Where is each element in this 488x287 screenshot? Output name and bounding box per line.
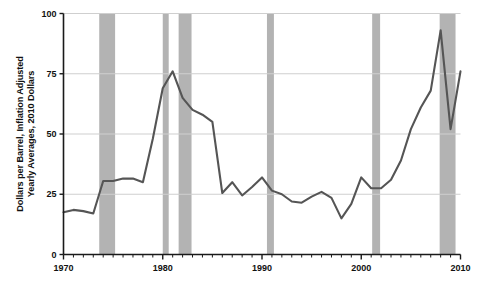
y-axis-tick-label: 75	[46, 69, 56, 79]
y-axis-title-line-2: Yearly Averages, 2010 Dollars	[26, 71, 36, 198]
chart-canvas: 025507510019701980199020002010Dollars pe…	[0, 0, 488, 287]
y-axis-tick-label: 100	[41, 9, 56, 19]
x-axis-tick-label: 1990	[252, 263, 272, 273]
y-axis-tick-label: 0	[51, 250, 56, 260]
oil-price-chart: 025507510019701980199020002010Dollars pe…	[0, 0, 488, 287]
x-axis-tick-label: 1980	[153, 263, 173, 273]
y-axis-tick-label: 25	[46, 189, 56, 199]
x-axis-tick-label: 1970	[53, 263, 73, 273]
x-axis-tick-label: 2000	[351, 263, 371, 273]
y-axis-title-line-1: Dollars per Barrel, Inflation Adjusted	[15, 56, 25, 212]
x-axis-tick-label: 2010	[450, 263, 470, 273]
y-axis-tick-label: 50	[46, 129, 56, 139]
